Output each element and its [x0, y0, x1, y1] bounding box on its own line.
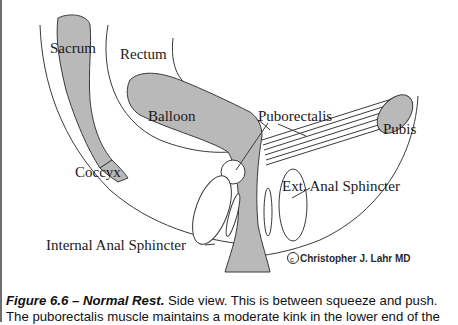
label-internal-anal-sphincter: Internal Anal Sphincter [46, 237, 186, 253]
copyright-author: Christopher J. Lahr MD [300, 253, 411, 264]
caption-line-1: Figure 6.6 – Normal Rest. Side view. Thi… [6, 293, 458, 309]
sacrum-shape [57, 15, 112, 168]
label-sacrum: Sacrum [50, 40, 96, 56]
leader-puborectalis-2 [278, 124, 306, 136]
label-coccyx: Coccyx [75, 164, 121, 180]
caption-line-1-text: Side view. This is between squeeze and p… [164, 293, 437, 308]
label-balloon: Balloon [148, 108, 196, 124]
copyright-symbol: c [290, 255, 294, 264]
anatomy-diagram: Sacrum Rectum Balloon Puborectalis Pubis… [0, 0, 458, 290]
leader-int-sphincter [205, 244, 215, 245]
label-pubis: Pubis [383, 121, 417, 137]
label-ext-anal-sphincter: Ext. Anal Sphincter [282, 178, 400, 194]
caption-line-2: The puborectalis muscle maintains a mode… [6, 309, 458, 325]
label-rectum: Rectum [120, 46, 167, 62]
int-anal-sphincter-right [264, 188, 272, 236]
figure-title: Figure 6.6 – Normal Rest. [6, 293, 164, 308]
figure-caption: Figure 6.6 – Normal Rest. Side view. Thi… [6, 293, 458, 325]
label-puborectalis: Puborectalis [258, 108, 332, 124]
